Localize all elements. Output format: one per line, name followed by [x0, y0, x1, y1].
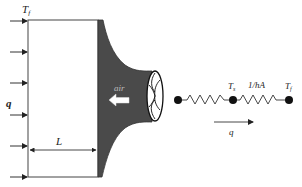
resistor-convection: [233, 95, 289, 104]
resistor-conduction: [178, 95, 233, 104]
node-fluid: [285, 96, 293, 104]
heat-transfer-diagram: air Tf q L Ts 1/hA Tf q: [0, 0, 302, 187]
surface-temperature-label: Ts: [228, 81, 236, 92]
fluid-temperature-label: Tf: [22, 3, 31, 17]
heat-flux-arrows: [10, 21, 27, 177]
fan-icon: [147, 71, 163, 121]
fluid-temperature-node-label: Tf: [285, 81, 293, 92]
thermal-circuit: Ts 1/hA Tf q: [174, 80, 293, 137]
convection-resistance-label: 1/hA: [248, 80, 266, 90]
heat-flow-label: q: [229, 127, 234, 137]
slab: [28, 20, 98, 177]
air-label: air: [114, 83, 125, 93]
node-surface: [229, 96, 237, 104]
length-label: L: [55, 135, 62, 147]
node-left: [174, 96, 182, 104]
heat-flux-label: q: [6, 97, 12, 109]
